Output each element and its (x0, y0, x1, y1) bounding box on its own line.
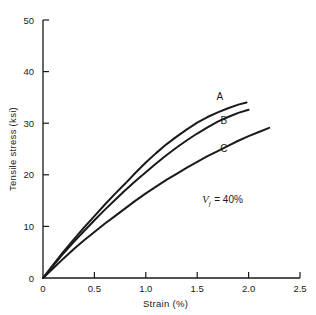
annotation-value: = 40% (214, 194, 243, 205)
y-tick-label: 0 (29, 273, 34, 284)
tensile-stress-strain-chart: 01020304050 00.51.01.52.02.5 ABC Vf= 40%… (0, 0, 316, 315)
chart-annotations: Vf= 40% (202, 194, 243, 208)
x-tick-label: 2.5 (293, 283, 306, 294)
x-tick-label: 1.5 (191, 283, 204, 294)
y-tick-label: 20 (23, 169, 34, 180)
y-axis-title: Tensile stress (ksi) (7, 107, 18, 191)
axis-titles: Strain (%)Tensile stress (ksi) (7, 107, 188, 309)
x-tick-label: 1.0 (139, 283, 152, 294)
y-tick-label: 50 (23, 15, 34, 26)
y-tick-label: 10 (23, 221, 34, 232)
y-axis: 01020304050 (23, 15, 49, 284)
x-tick-label: 0.5 (88, 283, 101, 294)
y-tick-label: 30 (23, 118, 34, 129)
annotation-subscript: f (209, 200, 212, 208)
curve-a (43, 103, 247, 278)
chart-canvas: 01020304050 00.51.01.52.02.5 ABC Vf= 40%… (0, 0, 316, 315)
data-curves (43, 103, 269, 278)
curve-label-a: A (216, 91, 223, 102)
y-tick-label: 40 (23, 66, 34, 77)
annotation-fiber-volume-fraction: Vf= 40% (202, 194, 243, 208)
curve-label-b: B (221, 115, 228, 126)
x-tick-label: 0 (40, 283, 45, 294)
x-axis: 00.51.01.52.02.5 (40, 272, 306, 294)
curve-label-c: C (220, 143, 227, 154)
x-axis-title: Strain (%) (143, 298, 188, 309)
x-tick-label: 2.0 (242, 283, 255, 294)
